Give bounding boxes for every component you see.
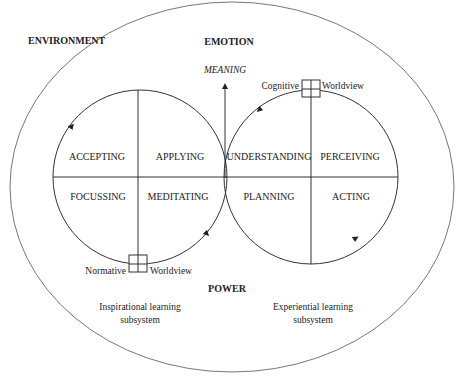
quadrant-focussing: FOCUSSING xyxy=(70,191,126,202)
quadrant-perceiving: PERCEIVING xyxy=(320,151,379,162)
quadrant-meditating: MEDITATING xyxy=(148,191,209,202)
inspirational-cycle xyxy=(53,90,227,272)
quadrant-planning: PLANNING xyxy=(243,191,294,202)
environment-label: ENVIRONMENT xyxy=(28,35,106,46)
inspirational-subsystem-line2: subsystem xyxy=(120,315,160,325)
environment-boundary xyxy=(10,2,454,372)
cycle-arrow-icon xyxy=(345,238,356,245)
quadrant-understanding: UNDERSTANDING xyxy=(227,151,312,162)
cycle-arrow-icon xyxy=(199,226,207,234)
normative-label: Normative xyxy=(85,266,126,276)
worldview-label-right: Worldview xyxy=(322,81,364,91)
quadrant-accepting: ACCEPTING xyxy=(69,151,125,162)
cognitive-label: Cognitive xyxy=(262,81,299,91)
meaning-label: MEANING xyxy=(203,65,246,75)
quadrant-acting: ACTING xyxy=(332,191,370,202)
experiential-subsystem-line1: Experiential learning xyxy=(273,302,353,312)
power-label: POWER xyxy=(208,283,247,294)
learning-system-diagram: ENVIRONMENT EMOTION POWER MEANING ACCEPT… xyxy=(0,0,458,385)
quadrant-applying: APPLYING xyxy=(156,151,204,162)
inspirational-subsystem-line1: Inspirational learning xyxy=(99,302,181,312)
experiential-cycle xyxy=(224,80,398,264)
emotion-label: EMOTION xyxy=(204,36,254,47)
experiential-subsystem-line2: subsystem xyxy=(293,315,333,325)
worldview-label-left: Worldview xyxy=(150,266,192,276)
